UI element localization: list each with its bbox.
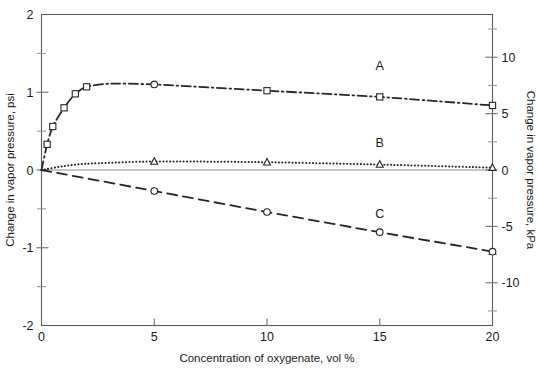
y2-axis-tick-label: 0	[502, 164, 509, 178]
y-axis-tick-label: 0	[27, 164, 34, 178]
y2-axis-tick-label: 5	[502, 107, 509, 121]
marker-square-a	[44, 141, 50, 147]
x-axis-tick-label: 0	[38, 330, 45, 344]
series-annotations: ABC	[375, 59, 384, 221]
marker-circle-c	[489, 248, 496, 255]
x-axis-tick-label: 10	[260, 330, 274, 344]
axis-ticks	[37, 29, 498, 325]
series-label-b: B	[376, 136, 384, 150]
y-axis-title: Change in vapor pressure, psi	[4, 93, 16, 246]
y2-axis-tick-label: 10	[502, 51, 516, 65]
chart-canvas: 05101520210-1-21050-5-10 ABC Concentrati…	[0, 0, 539, 379]
marker-square-a	[489, 102, 495, 108]
x-axis-tick-label: 15	[373, 330, 387, 344]
series-label-a: A	[376, 59, 385, 73]
marker-circle-a	[151, 81, 158, 88]
marker-square-a	[61, 105, 67, 111]
data-point-markers	[44, 81, 496, 255]
marker-square-a	[377, 94, 383, 100]
axis-tick-labels: 05101520210-1-21050-5-10	[22, 8, 519, 344]
marker-square-a	[72, 91, 78, 97]
y2-axis-tick-label: -5	[502, 220, 513, 234]
plot-frame	[42, 15, 493, 326]
x-axis-title: Concentration of oxygenate, vol %	[179, 352, 354, 364]
marker-circle-c	[376, 229, 383, 236]
y-axis-tick-label: 1	[27, 86, 34, 100]
curve-a	[42, 84, 493, 170]
marker-circle-c	[151, 188, 158, 195]
marker-square-a	[84, 84, 90, 90]
marker-square-a	[50, 123, 56, 129]
x-axis-tick-label: 5	[151, 330, 158, 344]
y-axis-tick-label: -1	[22, 241, 33, 255]
axis-titles: Concentration of oxygenate, vol %Change …	[4, 91, 537, 364]
y2-axis-title: Change in vapor pressure, kPa	[525, 91, 537, 250]
y2-axis-tick-label: -10	[502, 276, 520, 290]
marker-circle-c	[264, 209, 271, 216]
y-axis-tick-label: 2	[27, 8, 34, 22]
x-axis-tick-label: 20	[486, 330, 500, 344]
series-label-c: C	[375, 207, 384, 221]
y-axis-tick-label: -2	[22, 319, 33, 333]
marker-square-a	[264, 88, 270, 94]
vapor-pressure-chart-figure: 05101520210-1-21050-5-10 ABC Concentrati…	[0, 0, 539, 379]
data-curves	[42, 84, 493, 252]
